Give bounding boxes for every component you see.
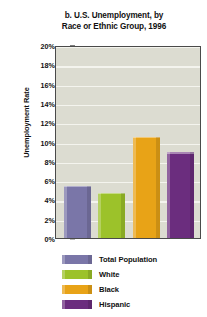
swatch-shadow [88,285,92,294]
legend-label: Hispanic [99,300,130,309]
legend-item: Total Population [62,252,202,266]
legend-item: White [62,267,202,281]
y-axis-tick-label: 0% [29,235,55,244]
unemployment-bar-chart-figure: b. U.S. Unemployment, by Race or Ethnic … [0,0,207,317]
legend-swatch [62,285,92,294]
bar-series [56,47,200,238]
plot-area [55,46,201,239]
legend-label: Black [99,285,119,294]
bar-shading [156,137,160,238]
swatch-highlight [62,300,65,309]
bar-total-population [64,186,91,238]
legend-item: Hispanic [62,297,202,311]
chart-legend: Total PopulationWhiteBlackHispanic [62,252,202,312]
bar-shading [87,186,91,238]
y-axis-tick-label: 14% [29,99,55,108]
swatch-shadow [88,300,92,309]
swatch-highlight [62,255,65,264]
y-axis-tick-label: 10% [29,138,55,147]
y-axis: 20%18%16%14%12%10%8%6%4%2%0% [20,46,55,239]
swatch-shadow [88,270,92,279]
legend-swatch [62,300,92,309]
bar-shading [133,137,136,238]
chart-title: b. U.S. Unemployment, by Race or Ethnic … [26,11,202,32]
legend-label: White [99,270,119,279]
y-axis-tick-label: 12% [29,119,55,128]
bar-black [133,137,160,238]
bar-hispanic [167,152,194,238]
legend-swatch [62,270,92,279]
legend-swatch [62,255,92,264]
bar-shading [167,152,170,238]
y-axis-tick-label: 8% [29,157,55,166]
legend-item: Black [62,282,202,296]
bar-shading [64,186,67,238]
chart-title-line-2: Race or Ethnic Group, 1996 [26,22,202,33]
swatch-highlight [62,285,65,294]
swatch-highlight [62,270,65,279]
y-axis-tick-label: 18% [29,61,55,70]
y-axis-tick-label: 20% [29,42,55,51]
swatch-shadow [88,255,92,264]
bar-shading [190,152,194,238]
bar-shading [121,193,125,238]
y-axis-tick-label: 6% [29,177,55,186]
bar-shading [98,193,101,238]
chart-title-line-1: b. U.S. Unemployment, by [26,11,202,22]
y-axis-tick-label: 16% [29,80,55,89]
y-axis-tick-label: 2% [29,215,55,224]
legend-label: Total Population [99,255,157,264]
y-axis-tick-label: 4% [29,196,55,205]
bar-white [98,193,125,238]
